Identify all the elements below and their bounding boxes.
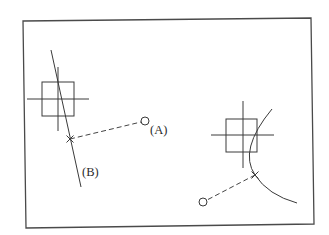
slanted-line-b <box>51 50 81 187</box>
right-group <box>199 101 297 206</box>
label-a: (A) <box>150 123 167 137</box>
left-dashed-leader <box>70 122 141 139</box>
left-group: (A) (B) <box>27 50 167 187</box>
label-b: (B) <box>82 165 99 179</box>
left-circle-a-icon <box>141 117 149 125</box>
right-circle-icon <box>199 198 207 206</box>
diagram-canvas: (A) (B) <box>0 0 329 235</box>
right-dashed-leader <box>207 175 255 200</box>
right-arc <box>249 109 297 203</box>
